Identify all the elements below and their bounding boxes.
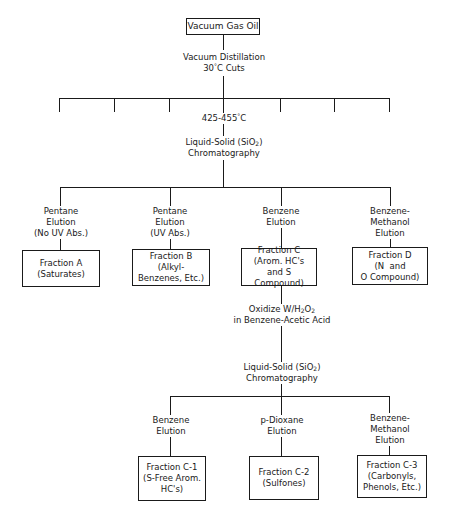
fraction-c3-box: Fraction C-3 (Carbonyls, Phenols, Etc.) <box>357 455 427 498</box>
step-line2: in Benzene-Acetic Acid <box>234 315 331 326</box>
elution-benzene-methanol: Benzene- Methanol Elution <box>370 206 410 239</box>
fraction-b-box: Fraction B (Alkyl- Benzenes, Etc.) <box>132 249 210 286</box>
fraction-d-box: Fraction D (N and O Compound) <box>352 247 428 285</box>
step-line1: Liquid-Solid (SiO2) <box>185 137 262 148</box>
step-chromatography-1: Liquid-Solid (SiO2) Chromatography <box>185 137 262 159</box>
cut-tick-5 <box>280 98 281 112</box>
connector-root-down <box>223 34 224 50</box>
elution-p-dioxane: p-Dioxane Elution <box>260 415 303 437</box>
connector-chromatography1-down <box>223 160 224 188</box>
cut-tick-1 <box>59 98 60 112</box>
step-vacuum-distillation: Vacuum Distillation 30°C Cuts <box>183 52 265 74</box>
elution-pentane-no-uv: Pentane Elution (No UV Abs.) <box>34 206 88 239</box>
step-line1: Vacuum Distillation <box>183 52 265 63</box>
distillation-cuts-bar <box>59 98 390 99</box>
fraction-c1-box: Fraction C-1 (S-Free Arom. HC's) <box>138 456 206 501</box>
fraction-c2-box: Fraction C-2 (Sulfones) <box>249 456 319 500</box>
cut-tick-3 <box>169 98 170 112</box>
selected-cut-label: 425-455°C <box>202 113 246 124</box>
step-line2: Chromatography <box>243 373 320 384</box>
branch-level2-bar <box>170 396 390 397</box>
cut-tick-7 <box>389 98 390 112</box>
elution-benzene-2: Benzene Elution <box>153 415 190 437</box>
elution-pentane-uv: Pentane Elution (UV Abs.) <box>150 206 190 239</box>
elution-benzene-methanol-2: Benzene- Methanol Elution <box>370 413 410 446</box>
cut-tick-6 <box>334 98 335 112</box>
step-line2: 30°C Cuts <box>183 63 265 74</box>
step-line1: Oxidize W/H2O2 <box>234 304 331 315</box>
step-line1: Liquid-Solid (SiO2) <box>243 362 320 373</box>
branch-level1-bar <box>60 187 391 188</box>
connector-distillation-down <box>223 76 224 118</box>
connector-cut-down <box>223 124 224 136</box>
cut-tick-2 <box>114 98 115 112</box>
step-line2: Chromatography <box>185 148 262 159</box>
step-oxidize: Oxidize W/H2O2 in Benzene-Acetic Acid <box>234 304 331 326</box>
elution-benzene: Benzene Elution <box>263 206 300 228</box>
node-vacuum-gas-oil: Vacuum Gas Oil <box>186 18 260 35</box>
step-chromatography-2: Liquid-Solid (SiO2) Chromatography <box>243 362 320 384</box>
fraction-a-box: Fraction A (Saturates) <box>22 250 100 287</box>
node-label: Vacuum Gas Oil <box>187 21 258 32</box>
fraction-c-box: Fraction C (Arom. HC's and S Compound) <box>241 248 317 286</box>
